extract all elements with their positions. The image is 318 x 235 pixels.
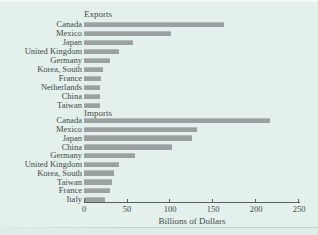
bar-label: Italy xyxy=(0,195,82,204)
bar xyxy=(84,144,172,150)
bar xyxy=(84,197,105,203)
bar xyxy=(84,188,110,194)
axis-tick xyxy=(298,199,299,203)
bar xyxy=(84,170,114,176)
axis-tick xyxy=(127,199,128,203)
axis-tick xyxy=(212,199,213,203)
scan-top-edge xyxy=(0,0,318,2)
bar xyxy=(84,135,192,141)
axis-tick-label: 150 xyxy=(198,205,228,214)
bar xyxy=(84,118,270,124)
axis-tick xyxy=(255,199,256,203)
bar xyxy=(84,162,119,168)
bar xyxy=(84,76,101,82)
bar xyxy=(84,85,100,91)
bar xyxy=(84,49,119,55)
axis-tick-label: 0 xyxy=(69,205,99,214)
x-axis-line xyxy=(84,202,300,203)
axis-tick-label: 200 xyxy=(241,205,271,214)
x-axis-label: Billions of Dollars xyxy=(84,216,300,226)
axis-tick xyxy=(84,199,85,203)
axis-tick-label: 50 xyxy=(112,205,142,214)
axis-tick-label: 250 xyxy=(284,205,314,214)
bar xyxy=(84,127,197,133)
trade-bar-chart-figure: ExportsCanadaMexicoJapanUnited KingdomGe… xyxy=(0,0,318,235)
scan-bottom-strip xyxy=(0,228,318,235)
bar xyxy=(84,153,135,159)
exports-title: Exports xyxy=(84,9,112,19)
bar xyxy=(84,22,224,28)
bar xyxy=(84,67,103,73)
bar-label: Taiwan xyxy=(0,101,82,110)
bar xyxy=(84,31,171,37)
bar xyxy=(84,40,133,46)
bar xyxy=(84,179,112,185)
bar xyxy=(84,94,100,100)
imports-title: Imports xyxy=(84,108,112,118)
axis-tick-label: 100 xyxy=(155,205,185,214)
bar xyxy=(84,58,110,64)
axis-tick xyxy=(169,199,170,203)
